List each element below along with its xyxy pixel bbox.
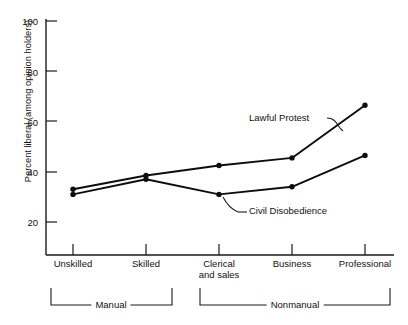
annotation-lawful-protest: Lawful Protest — [249, 112, 309, 123]
x-tick-label-unskilled: Unskilled — [54, 258, 93, 269]
data-point-lawful-professional — [362, 103, 367, 108]
leader-line-lawful-protest — [327, 118, 343, 131]
group-label-nonmanual: Nonmanual — [267, 299, 324, 310]
group-label-manual: Manual — [91, 299, 130, 310]
data-point-lawful-business — [289, 155, 294, 160]
chart-figure: Percent liberal (among opinion holders) … — [0, 0, 408, 325]
data-point-civil-clerical — [216, 192, 221, 197]
series-line-lawful-protest — [73, 105, 365, 189]
data-point-civil-skilled — [143, 177, 148, 182]
x-tick-label-clerical-line2: and sales — [199, 269, 240, 280]
data-point-civil-business — [289, 184, 294, 189]
data-point-lawful-unskilled — [70, 187, 75, 192]
x-tick-label-clerical: Clerical and sales — [199, 258, 240, 280]
data-point-civil-professional — [362, 153, 367, 158]
data-point-lawful-clerical — [216, 163, 221, 168]
x-tick-label-professional: Professional — [339, 258, 391, 269]
data-point-civil-unskilled — [70, 192, 75, 197]
x-tick-label-clerical-line1: Clerical — [199, 258, 240, 269]
annotation-civil-disobedience: Civil Disobedience — [249, 205, 327, 216]
leader-line-civil-disobedience — [223, 197, 238, 212]
x-tick-label-skilled: Skilled — [132, 258, 160, 269]
series-line-civil-disobedience — [73, 155, 365, 194]
x-tick-label-business: Business — [273, 258, 312, 269]
